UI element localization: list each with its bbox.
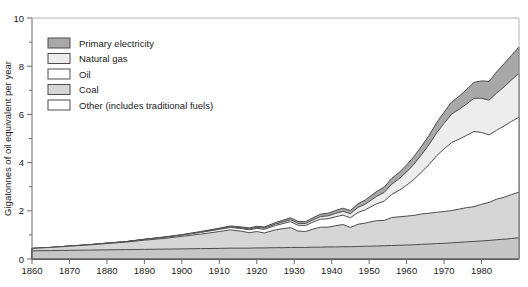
- legend-swatch: [48, 100, 70, 110]
- legend-label: Coal: [79, 84, 99, 95]
- y-tick-label: 0: [19, 254, 24, 265]
- chart-legend: Primary electricityNatural gasOilCoalOth…: [48, 38, 213, 111]
- legend-label: Oil: [79, 69, 91, 80]
- x-tick-label: 1960: [396, 265, 417, 276]
- legend-label: Primary electricity: [79, 38, 154, 49]
- x-tick-label: 1950: [359, 265, 380, 276]
- legend-swatch: [48, 85, 70, 95]
- stacked-areas: [32, 47, 519, 259]
- x-tick-label: 1970: [434, 265, 455, 276]
- y-tick-label: 10: [13, 13, 24, 24]
- energy-consumption-chart: 1860187018801890190019101920193019401950…: [0, 0, 528, 287]
- x-tick-label: 1940: [321, 265, 342, 276]
- legend-swatch: [48, 38, 70, 48]
- y-axis-title: Gigatonnes of oil equivalent per year: [2, 61, 13, 216]
- x-tick-label: 1890: [134, 265, 155, 276]
- legend-swatch: [48, 54, 70, 64]
- chart-canvas: 1860187018801890190019101920193019401950…: [0, 0, 528, 287]
- x-tick-label: 1910: [209, 265, 230, 276]
- x-tick-label: 1930: [284, 265, 305, 276]
- x-tick-label: 1860: [21, 265, 42, 276]
- legend-label: Other (includes traditional fuels): [79, 100, 213, 111]
- legend-swatch: [48, 69, 70, 79]
- x-tick-label: 1900: [171, 265, 192, 276]
- y-tick-label: 8: [19, 61, 24, 72]
- x-tick-label: 1980: [471, 265, 492, 276]
- x-tick-label: 1870: [59, 265, 80, 276]
- y-tick-label: 2: [19, 205, 24, 216]
- legend-label: Natural gas: [79, 53, 128, 64]
- x-tick-label: 1920: [246, 265, 267, 276]
- y-tick-label: 4: [19, 157, 24, 168]
- y-tick-label: 6: [19, 109, 24, 120]
- y-axis-title-text: Gigatonnes of oil equivalent per year: [2, 61, 13, 216]
- x-tick-label: 1880: [96, 265, 117, 276]
